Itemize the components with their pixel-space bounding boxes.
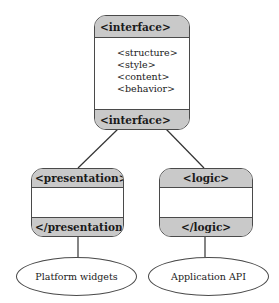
item-content: <content> [117, 71, 189, 83]
item-style: <style> [117, 59, 189, 71]
logic-footer: </logic> [160, 217, 252, 236]
application-api-label: Application API [171, 271, 246, 282]
platform-widgets-label: Platform widgets [35, 271, 117, 282]
interface-node: <interface> <structure> <style> <content… [94, 15, 190, 130]
item-structure: <structure> [117, 47, 189, 59]
presentation-header: <presentation> [32, 169, 123, 188]
item-behavior: <behavior> [117, 83, 189, 95]
logic-header: <logic> [160, 169, 252, 188]
presentation-node: <presentation> </presentation> [31, 168, 124, 237]
interface-items: <structure> <style> <content> <behavior> [95, 38, 189, 95]
platform-widgets-ellipse: Platform widgets [16, 257, 137, 296]
application-api-ellipse: Application API [148, 257, 269, 296]
interface-footer: <interface> [95, 109, 189, 129]
presentation-footer: </presentation> [32, 217, 123, 236]
logic-node: <logic> </logic> [159, 168, 253, 237]
interface-header: <interface> [95, 16, 189, 38]
